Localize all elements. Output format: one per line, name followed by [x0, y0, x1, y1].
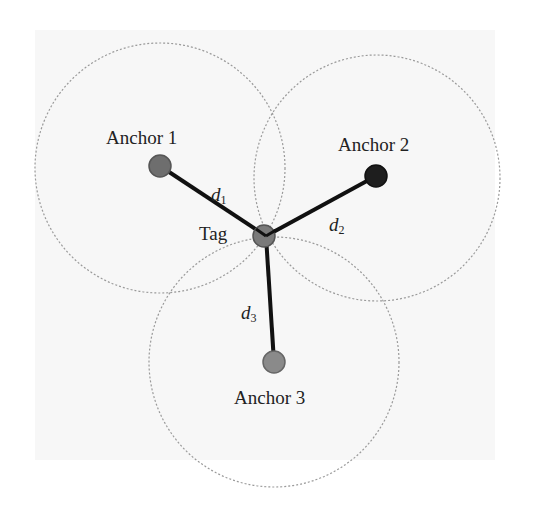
d3-subscript: 3 — [251, 311, 257, 325]
d2-line — [266, 176, 376, 236]
trilateration-diagram — [0, 0, 546, 515]
d3-label: d3 — [241, 303, 257, 324]
d2-symbol: d — [329, 214, 339, 235]
anchor1-node — [149, 155, 171, 177]
d2-label: d2 — [329, 215, 345, 236]
d3-line — [266, 236, 274, 362]
d1-symbol: d — [211, 184, 221, 205]
d1-subscript: 1 — [221, 193, 227, 207]
d1-label: d1 — [211, 185, 227, 206]
tag-label: Tag — [199, 224, 227, 243]
anchor1-label: Anchor 1 — [106, 128, 177, 147]
anchor2-label: Anchor 2 — [338, 135, 409, 154]
d2-subscript: 2 — [339, 223, 345, 237]
anchor3-label: Anchor 3 — [234, 388, 305, 407]
anchor2-node — [365, 165, 387, 187]
d3-symbol: d — [241, 302, 251, 323]
anchor3-node — [263, 351, 285, 373]
